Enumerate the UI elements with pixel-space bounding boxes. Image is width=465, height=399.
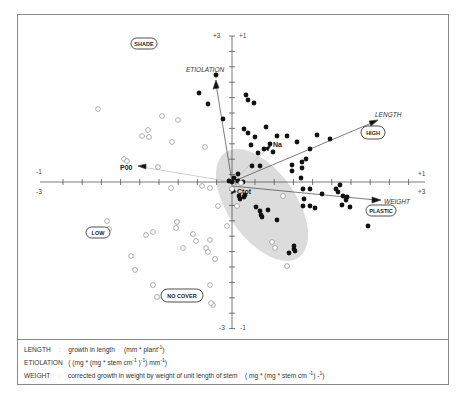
data-point-open — [151, 230, 156, 235]
data-point-open — [169, 186, 174, 191]
na-label: Na — [273, 141, 282, 148]
data-point-filled — [328, 137, 333, 142]
data-point-filled — [258, 164, 263, 169]
plastic-text: PLASTIC — [369, 208, 393, 214]
tick-bottom-outer: -3 — [219, 324, 225, 331]
length-label: LENGTH — [375, 111, 402, 118]
data-point-filled — [320, 192, 325, 197]
data-point-filled — [302, 197, 307, 202]
data-point-filled — [264, 125, 269, 130]
high-text: HIGH — [366, 130, 380, 136]
data-point-filled — [290, 163, 295, 168]
length-arrowhead — [369, 120, 378, 126]
tick-bottom-inner: -1 — [240, 324, 246, 331]
data-point-filled — [300, 160, 305, 165]
data-point-filled — [214, 73, 219, 78]
data-point-filled — [246, 98, 251, 103]
length-vector — [232, 122, 374, 182]
data-point-open — [208, 283, 213, 288]
data-point-open — [160, 114, 165, 119]
legend-unit-weight-c: ) — [322, 372, 324, 379]
data-point-open — [146, 128, 151, 133]
data-point-filled — [290, 169, 295, 174]
data-point-open — [200, 184, 205, 189]
tick-top-outer: +3 — [213, 32, 221, 39]
data-point-filled — [206, 102, 211, 107]
data-point-open — [203, 145, 208, 150]
region-label-no-cover: NO COVER — [161, 289, 203, 302]
data-point-filled — [250, 164, 255, 169]
data-point-open — [151, 283, 156, 288]
data-point-filled — [313, 206, 318, 211]
data-point-open — [175, 220, 180, 225]
etiolation-label: ETIOLATION — [186, 66, 224, 73]
data-point-open — [140, 134, 145, 139]
p00-arrowhead — [138, 164, 146, 169]
data-point-open — [285, 264, 290, 269]
data-point-filled — [304, 157, 309, 162]
data-point-filled — [256, 151, 261, 156]
data-point-filled — [336, 190, 341, 195]
data-point-open — [230, 187, 235, 192]
data-point-open — [194, 239, 199, 244]
data-point-filled — [244, 93, 249, 98]
legend-line-length: LENGTH : growth in length (mm * plant-1) — [24, 342, 442, 355]
legend-key-weight: WEIGHT — [24, 370, 50, 381]
data-point-filled — [268, 142, 273, 147]
tick-left-outer: -3 — [36, 188, 42, 195]
data-point-open — [96, 107, 101, 112]
data-point-filled — [285, 134, 290, 139]
data-point-filled — [221, 117, 226, 122]
data-point-open — [208, 186, 213, 191]
data-point-open — [213, 257, 218, 262]
data-point-filled — [262, 147, 267, 152]
data-point-filled — [287, 251, 292, 256]
data-point-filled — [292, 244, 297, 249]
data-point-filled — [232, 176, 237, 181]
data-point-filled — [348, 205, 353, 210]
legend-line-etiolation: ETIOLATION ( (mg * (mg * stem cm-1 )-1) … — [24, 355, 442, 368]
biplot-chart: +3 +1 -3 -1 -1 -3 +1 +3 ETIOLATION LENGT… — [0, 0, 465, 339]
tick-right-outer: +3 — [418, 188, 426, 195]
ctot-label: Ctot — [237, 188, 252, 195]
data-point-filled — [301, 204, 306, 209]
legend-text-weight: corrected growth in weight by weight of … — [68, 372, 238, 379]
data-point-open — [176, 118, 181, 123]
data-point-open — [155, 295, 160, 300]
data-point-filled — [266, 208, 271, 213]
region-label-low: LOW — [86, 227, 110, 238]
legend-text-etiolation-a: ( (mg * (mg * stem cm — [68, 359, 132, 366]
data-point-open — [270, 240, 275, 245]
data-point-filled — [275, 134, 280, 139]
etiolation-arrowhead — [213, 80, 219, 89]
data-point-filled — [271, 150, 276, 155]
data-point-open — [281, 194, 286, 199]
data-point-filled — [249, 143, 254, 148]
data-point-filled — [227, 179, 232, 184]
legend-key-length: LENGTH — [24, 344, 51, 355]
legend-sep: : — [58, 370, 60, 381]
data-point-filled — [242, 127, 247, 132]
region-label-shade: SHADE — [131, 38, 157, 49]
data-point-filled — [253, 135, 258, 140]
data-point-filled — [344, 198, 349, 203]
data-point-filled — [246, 131, 251, 136]
data-point-open — [147, 135, 152, 140]
legend-unit-length: (mm * plant — [124, 346, 158, 353]
weight-label: WEIGHT — [384, 198, 411, 205]
region-label-plastic: PLASTIC — [366, 205, 396, 216]
data-point-open — [133, 268, 138, 273]
data-point-open — [191, 232, 196, 237]
data-point-filled — [341, 194, 346, 199]
region-label-high: HIGH — [361, 126, 385, 139]
data-point-filled — [308, 204, 313, 209]
data-point-open — [129, 254, 134, 259]
data-point-filled — [259, 213, 264, 218]
data-point-filled — [308, 187, 313, 192]
no-cover-text: NO COVER — [167, 293, 196, 299]
legend-key-etiolation: ETIOLATION — [24, 357, 63, 368]
legend-box: LENGTH : growth in length (mm * plant-1)… — [17, 339, 449, 385]
data-point-filled — [315, 133, 320, 138]
data-point-open — [225, 224, 230, 229]
p00-label: P00 — [120, 164, 133, 171]
